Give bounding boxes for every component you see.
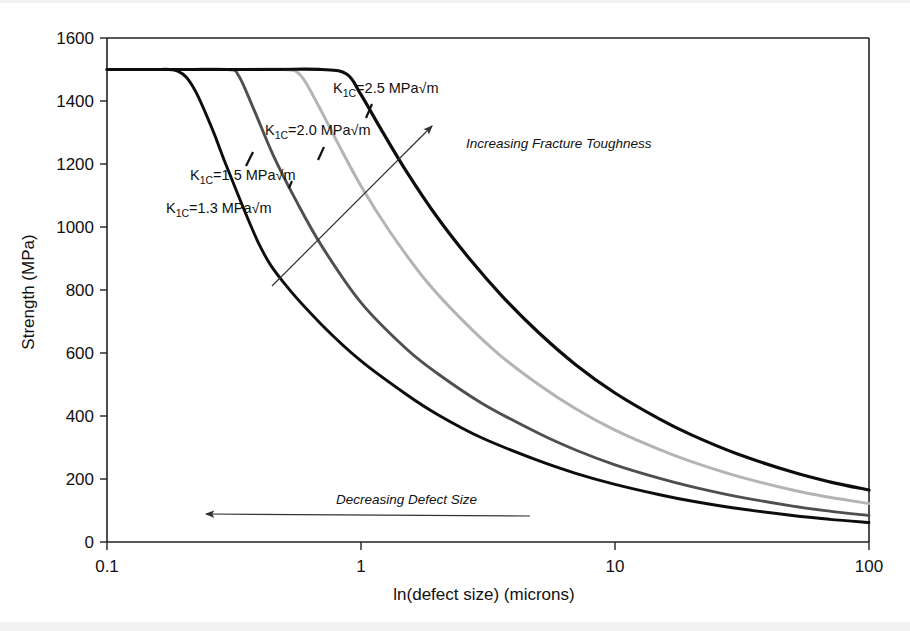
chart-figure: 02004006008001000120014001600 0.1110100 … [0, 0, 910, 631]
y-tick-label: 1400 [56, 92, 94, 111]
x-axis-label: ln(defect size) (microns) [393, 585, 574, 604]
x-tick-label: 0.1 [95, 557, 119, 576]
strength-vs-defect-size-chart: 02004006008001000120014001600 0.1110100 … [0, 0, 910, 631]
y-tick-label: 1600 [56, 29, 94, 48]
y-tick-label: 1200 [56, 155, 94, 174]
y-tick-label: 1000 [56, 218, 94, 237]
x-tick-label: 10 [606, 557, 625, 576]
y-tick-label: 600 [66, 344, 94, 363]
y-tick-label: 800 [66, 281, 94, 300]
increasing-toughness-label: Increasing Fracture Toughness [466, 136, 652, 151]
y-axis-label: Strength (MPa) [19, 234, 38, 349]
x-tick-label: 1 [356, 557, 365, 576]
scan-edge-bottom [0, 622, 910, 631]
chart-background [0, 0, 910, 631]
y-tick-label: 400 [66, 407, 94, 426]
decreasing-defect-label: Decreasing Defect Size [336, 492, 477, 507]
y-tick-label: 200 [66, 470, 94, 489]
y-tick-label: 0 [85, 533, 94, 552]
x-tick-label: 100 [855, 557, 883, 576]
scan-edge-top [0, 0, 910, 3]
